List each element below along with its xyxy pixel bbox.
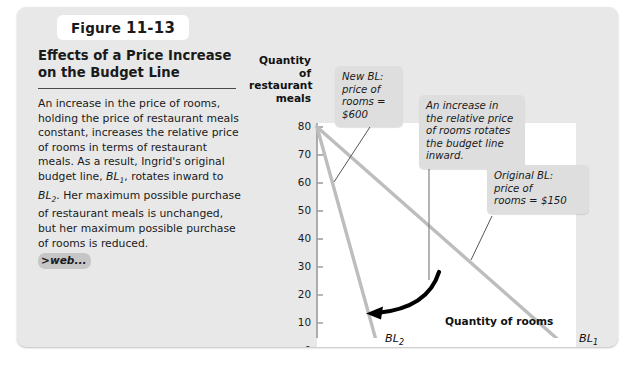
callout-rotation-explanation: An increase in the relative price of roo… [419,95,525,169]
bl1-label-text: BL [579,332,593,345]
bl1-inline-reference: BL1 [106,170,124,183]
chart-area: Quantity of restaurant meals [249,48,611,338]
figure-number: 11-13 [126,19,175,37]
bl1-inline-label: BL [106,170,119,183]
rotation-arrow-curve [377,272,439,313]
callout-rotate-line-5: inward. [426,150,518,163]
callout-rotate-line-1: An increase in [426,100,518,113]
leader-line-original-bl [471,216,492,260]
callout-rotate-line-4: the budget line [426,138,518,151]
y-tick-label-80: 80 [283,120,311,132]
figure-body-text: An increase in the price of rooms, holdi… [38,97,243,269]
bl2-inline-label: BL [38,189,51,202]
figure-panel: Figure 11-13 Effects of a Price Increase… [17,7,618,347]
x-axis-title: Quantity of rooms [445,315,553,327]
callout-new-bl-line-3: rooms = [342,96,396,109]
callout-new-budget-line: New BL: price of rooms = $600 [335,66,403,127]
y-axis-ticks [317,127,323,323]
y-tick-label-30: 30 [283,260,311,272]
y-tick-label-20: 20 [283,288,311,300]
bl1-label-subscript: 1 [593,338,598,347]
bl2-inline-reference: BL2 [38,189,56,202]
callout-orig-bl-line-2: price of [494,183,582,196]
y-tick-label-70: 70 [283,148,311,160]
bl2-label-text: BL [385,332,399,345]
callout-orig-bl-line-1: Original BL: [494,170,582,183]
figure-title: Effects of a Price Increase on the Budge… [38,48,243,81]
title-divider [38,88,236,89]
budget-line-1-label: BL1 [579,332,598,347]
budget-line-2-label: BL2 [385,332,404,347]
figure-label-word: Figure [71,20,121,36]
figure-text-column: Effects of a Price Increase on the Budge… [38,48,243,269]
budget-line-2 [317,127,379,338]
y-tick-label-0: 0 [283,344,311,347]
y-tick-label-40: 40 [283,232,311,244]
callout-new-bl-line-4: $600 [342,109,396,122]
web-link-badge[interactable]: >web... [38,253,91,269]
y-tick-label-60: 60 [283,176,311,188]
callout-new-bl-line-1: New BL: [342,71,396,84]
callout-new-bl-line-2: price of [342,84,396,97]
callout-rotate-line-2: the relative price [426,113,518,126]
callout-orig-bl-line-3: rooms = $150 [494,195,582,208]
y-tick-label-50: 50 [283,204,311,216]
callout-rotate-line-3: of rooms rotates [426,125,518,138]
body-text-part-3: . Her maximum possible purchase of resta… [38,189,241,250]
callout-original-budget-line: Original BL: price of rooms = $150 [487,165,589,214]
bl2-label-subscript: 2 [399,338,404,347]
y-tick-label-10: 10 [283,316,311,328]
body-text-part-2: , rotates inward to [124,170,223,183]
figure-number-badge: Figure 11-13 [57,15,189,40]
